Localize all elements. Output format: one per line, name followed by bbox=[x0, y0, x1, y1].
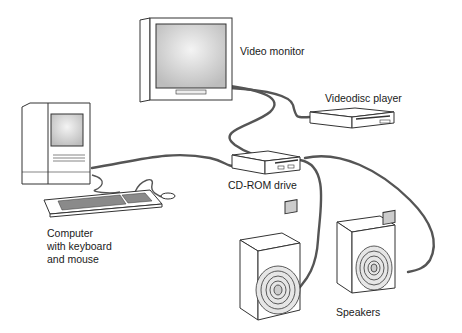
video-monitor bbox=[140, 18, 232, 102]
mouse bbox=[161, 193, 175, 199]
keyboard bbox=[44, 190, 162, 217]
cable-keyboard bbox=[92, 175, 120, 193]
label-speakers: Speakers bbox=[336, 306, 380, 319]
label-videodisc-player: Videodisc player bbox=[325, 92, 402, 105]
speaker-right bbox=[337, 210, 395, 293]
videodisc-player bbox=[310, 108, 394, 128]
label-cdrom-drive: CD-ROM drive bbox=[228, 179, 297, 192]
computer bbox=[22, 103, 90, 184]
cable-computer-cdrom bbox=[92, 155, 235, 168]
label-computer-line2: with keyboard bbox=[47, 240, 112, 253]
diagram-canvas bbox=[0, 0, 462, 333]
label-computer-line3: and mouse bbox=[47, 253, 99, 266]
cdrom-drive bbox=[232, 151, 300, 174]
label-computer-line1: Computer bbox=[47, 227, 93, 240]
cable-cdrom-speaker-left bbox=[298, 160, 321, 290]
speaker-left bbox=[240, 200, 300, 320]
cable-monitor-cdrom bbox=[230, 86, 275, 155]
label-video-monitor: Video monitor bbox=[240, 45, 305, 58]
